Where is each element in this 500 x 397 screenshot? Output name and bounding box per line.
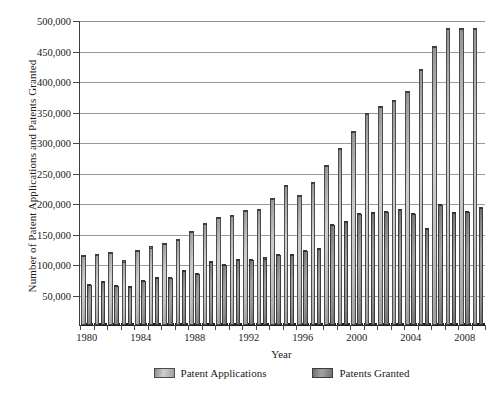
x-axis-tick-label: 1992 [238, 332, 259, 343]
bar-grant-1994 [276, 255, 281, 325]
bar-top-cap [405, 91, 409, 93]
x-axis-tick [94, 325, 95, 330]
bar-grant-1995 [290, 255, 295, 325]
x-axis-tick [404, 325, 405, 330]
bar-grant-1993 [263, 259, 268, 325]
bar-group [404, 20, 418, 325]
bar-top-cap [249, 259, 253, 261]
bar-top-cap [276, 254, 280, 256]
bar-top-cap [81, 255, 85, 257]
bar-group [256, 20, 270, 325]
bar-app-2009 [473, 29, 478, 325]
bar-app-1985 [149, 248, 154, 325]
y-axis-tick-label: 100,000 [37, 260, 71, 271]
bar-app-1992 [243, 211, 248, 325]
bar-top-cap [365, 113, 369, 115]
bar-top-cap [303, 250, 307, 252]
x-axis-tick-label: 1988 [184, 332, 205, 343]
y-axis-tick-label: 250,000 [37, 168, 71, 179]
x-axis-tick [283, 325, 284, 330]
x-axis-tick [107, 325, 108, 330]
bar-app-2007 [446, 29, 451, 325]
bar-grant-1996 [303, 251, 308, 325]
bar-top-cap [398, 209, 402, 211]
bar-top-cap [108, 252, 112, 254]
bar-group [188, 20, 202, 325]
bar-group [418, 20, 432, 325]
x-axis-tick-label: 1980 [76, 332, 97, 343]
bar-top-cap [357, 213, 361, 215]
x-axis-tick [472, 325, 473, 330]
x-axis-tick [458, 325, 459, 330]
bar-group [445, 20, 459, 325]
y-axis-tick [73, 235, 79, 236]
y-axis-tick [73, 174, 79, 175]
x-axis-tick [121, 325, 122, 330]
bar-top-cap [392, 100, 396, 102]
y-axis-tick [73, 21, 79, 22]
bar-top-cap [338, 148, 342, 150]
bar-top-cap [432, 46, 436, 48]
x-axis-tick [418, 325, 419, 330]
bar-top-cap [162, 243, 166, 245]
bar-app-1998 [324, 166, 329, 325]
bar-app-1984 [135, 251, 140, 325]
y-axis-tick-label: 350,000 [37, 107, 71, 118]
bar-group [283, 20, 297, 325]
x-axis-tick-label: 2008 [454, 332, 475, 343]
bar-grant-2004 [411, 214, 416, 325]
x-axis-tick [215, 325, 216, 330]
bar-top-cap [459, 28, 463, 30]
bar-top-cap [419, 69, 423, 71]
legend-item-grant: Patents Granted [312, 367, 409, 379]
chart-legend: Patent ApplicationsPatents Granted [79, 367, 484, 379]
bar-top-cap [168, 277, 172, 279]
bar-group [377, 20, 391, 325]
bar-group [107, 20, 121, 325]
bar-top-cap [189, 231, 193, 233]
bar-grant-1981 [101, 282, 106, 325]
bar-app-2003 [392, 101, 397, 325]
bar-grant-1982 [114, 286, 119, 325]
bar-top-cap [290, 254, 294, 256]
x-axis-tick-label: 1984 [130, 332, 151, 343]
bar-group [472, 20, 486, 325]
bar-group [337, 20, 351, 325]
bar-top-cap [263, 257, 267, 259]
bar-top-cap [230, 215, 234, 217]
bar-grant-1997 [317, 249, 322, 325]
bar-group [310, 20, 324, 325]
legend-item-app: Patent Applications [154, 367, 267, 379]
bar-top-cap [270, 198, 274, 200]
y-axis-tick [73, 52, 79, 53]
y-axis-tick [73, 82, 79, 83]
bar-group [458, 20, 472, 325]
bar-top-cap [87, 284, 91, 286]
bar-top-cap [135, 250, 139, 252]
bar-grant-2009 [479, 208, 484, 325]
y-axis-tick [73, 296, 79, 297]
bar-app-2001 [365, 114, 370, 325]
bar-group [94, 20, 108, 325]
bar-top-cap [149, 246, 153, 248]
x-axis-tick [175, 325, 176, 330]
x-axis-tick [350, 325, 351, 330]
bar-app-1982 [108, 253, 113, 325]
bar-top-cap [122, 260, 126, 262]
bar-top-cap [243, 210, 247, 212]
bar-top-cap [479, 207, 483, 209]
bar-grant-1987 [182, 271, 187, 325]
bar-group [364, 20, 378, 325]
bar-top-cap [473, 28, 477, 30]
bar-app-1981 [95, 255, 100, 325]
bar-top-cap [344, 221, 348, 223]
bar-app-1983 [122, 262, 127, 325]
bar-grant-2003 [398, 210, 403, 325]
bar-app-1996 [297, 196, 302, 325]
x-axis-tick [337, 325, 338, 330]
bar-group [350, 20, 364, 325]
bar-top-cap [257, 209, 261, 211]
y-axis-tick-label: 200,000 [37, 199, 71, 210]
x-axis-tick [202, 325, 203, 330]
bar-app-2005 [419, 70, 424, 325]
